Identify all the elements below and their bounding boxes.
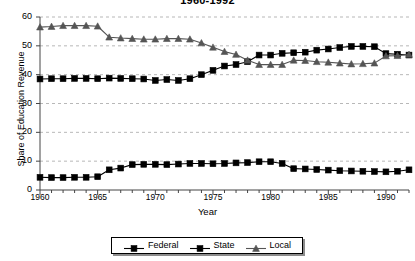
data-point	[72, 174, 78, 180]
data-point	[106, 167, 112, 173]
data-point	[395, 168, 401, 174]
data-point	[268, 159, 274, 165]
data-point	[210, 67, 216, 73]
data-point	[118, 76, 124, 82]
data-point	[372, 44, 378, 50]
data-point	[372, 169, 378, 175]
data-point	[302, 49, 308, 55]
square-marker-icon	[189, 240, 211, 251]
data-point	[60, 76, 66, 82]
legend-label: Local	[270, 241, 292, 250]
data-point	[210, 161, 216, 167]
data-point	[49, 175, 55, 181]
data-point	[360, 44, 366, 50]
plot-area	[0, 0, 415, 261]
data-point	[141, 161, 147, 167]
data-point	[164, 162, 170, 168]
data-point	[106, 75, 112, 81]
square-marker-icon	[123, 240, 145, 251]
data-point	[268, 52, 274, 58]
data-point	[314, 167, 320, 173]
education-revenue-chart: 1960-1992 Share of Education Revenue Yea…	[0, 0, 415, 261]
data-point	[83, 174, 89, 180]
series-local	[37, 22, 413, 67]
data-point	[129, 76, 135, 82]
data-point	[233, 62, 239, 68]
data-point	[210, 44, 217, 50]
data-point	[199, 161, 205, 167]
data-point	[175, 161, 181, 167]
triangle-marker-icon	[245, 240, 267, 251]
data-point	[325, 167, 331, 173]
data-point	[152, 161, 158, 167]
data-point	[383, 169, 389, 175]
data-point	[337, 45, 343, 51]
data-point	[406, 167, 412, 173]
data-point	[221, 48, 228, 54]
legend-label: State	[214, 241, 235, 250]
data-point	[164, 77, 170, 83]
data-point	[325, 46, 331, 52]
data-point	[256, 159, 262, 165]
data-point	[348, 168, 354, 174]
legend-label: Federal	[148, 241, 179, 250]
data-point	[291, 50, 297, 56]
data-point	[118, 165, 124, 171]
data-point	[187, 161, 193, 167]
data-point	[222, 63, 228, 69]
data-point	[95, 174, 101, 180]
data-point	[314, 47, 320, 53]
data-point	[60, 175, 66, 181]
data-point	[360, 168, 366, 174]
data-point	[348, 44, 354, 50]
data-point	[256, 52, 262, 58]
data-point	[187, 76, 193, 82]
data-point	[141, 76, 147, 82]
data-point	[175, 78, 181, 84]
data-point	[129, 162, 135, 168]
data-point	[72, 76, 78, 82]
data-point	[233, 160, 239, 166]
data-point	[152, 78, 158, 84]
data-point	[37, 174, 43, 180]
legend-item-state[interactable]: State	[189, 240, 235, 251]
legend-item-federal[interactable]: Federal	[123, 240, 179, 251]
data-point	[95, 76, 101, 82]
data-point	[291, 166, 297, 172]
data-point	[49, 76, 55, 82]
data-point	[37, 76, 43, 82]
data-point	[222, 161, 228, 167]
data-point	[245, 160, 251, 166]
data-point	[279, 161, 285, 167]
data-point	[83, 76, 89, 82]
chart-legend: FederalStateLocal	[111, 237, 303, 254]
data-point	[279, 50, 285, 56]
data-point	[302, 166, 308, 172]
series-federal	[37, 159, 412, 181]
legend-item-local[interactable]: Local	[245, 240, 292, 251]
data-point	[199, 72, 205, 78]
data-point	[337, 168, 343, 174]
